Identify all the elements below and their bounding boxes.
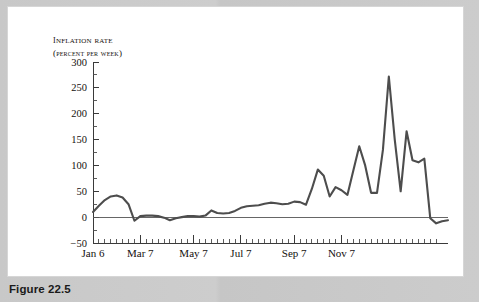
x-tick-label: Mar 7 — [127, 247, 154, 259]
x-tick-label: Nov 7 — [328, 247, 356, 259]
page-background: Inflation rate (percent per week) 300250… — [0, 0, 479, 302]
y-tick-label: 250 — [71, 82, 87, 93]
y-tick-label: 200 — [71, 108, 87, 119]
inflation-line-chart: 300250200150100500−50 Jan 6Mar 7May 7Jul… — [8, 7, 463, 276]
x-tick-label: Jan 6 — [82, 247, 105, 259]
x-tick-label: May 7 — [179, 247, 208, 259]
figure-panel: Inflation rate (percent per week) 300250… — [8, 7, 463, 276]
y-axis: 300250200150100500−50 — [71, 57, 99, 249]
x-axis: Jan 6Mar 7May 7Jul 7Sep 7Nov 7 — [82, 235, 448, 259]
figure-caption: Figure 22.5 — [9, 283, 71, 295]
x-tick-label: Sep 7 — [282, 247, 307, 259]
data-series — [93, 76, 448, 223]
y-tick-label: 300 — [71, 57, 87, 68]
y-tick-label: 50 — [77, 186, 88, 197]
x-tick-label: Jul 7 — [230, 247, 252, 259]
y-tick-label: 100 — [71, 160, 87, 171]
y-tick-label: 0 — [82, 212, 87, 223]
y-tick-label: 150 — [71, 134, 87, 145]
inflation-rate-line — [93, 76, 448, 223]
